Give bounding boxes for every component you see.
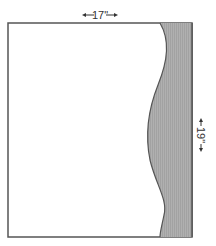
arrow-down-icon [199,148,203,152]
arrow-left-icon [82,13,86,17]
width-dimension: 17" [82,9,118,21]
width-label: 17" [92,9,108,21]
arrow-right-icon [114,13,118,17]
arrow-up-icon [199,118,203,122]
pattern-diagram: 17" 19" [0,0,216,246]
height-label: 19" [195,127,207,143]
height-dimension: 19" [195,118,207,152]
